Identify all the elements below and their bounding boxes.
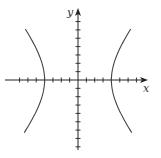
hyperbola-left-branch	[24, 29, 44, 133]
x-axis-label: x	[143, 82, 150, 95]
y-axis-label: y	[66, 6, 74, 19]
hyperbola-plot: x y	[0, 0, 161, 158]
hyperbola-right-branch	[111, 29, 131, 133]
